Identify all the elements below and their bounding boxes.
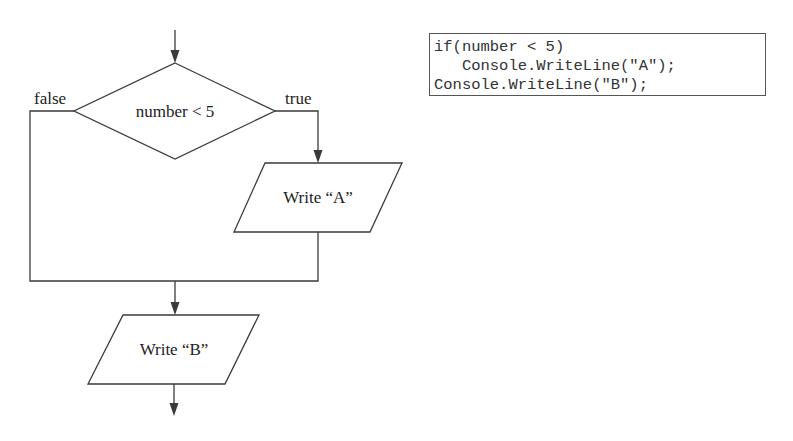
code-line-3: Console.WriteLine("B"); xyxy=(434,76,765,95)
write-b-label: Write “B” xyxy=(140,340,209,359)
exit-arrow xyxy=(170,384,179,416)
false-label: false xyxy=(34,89,66,108)
code-line-1: if(number < 5) xyxy=(434,38,765,57)
write-a-io-shape: Write “A” xyxy=(234,163,402,232)
write-a-label: Write “A” xyxy=(283,188,353,207)
code-line-2: Console.WriteLine("A"); xyxy=(434,57,765,76)
decision-label: number < 5 xyxy=(136,102,215,121)
merge-connector xyxy=(171,232,319,315)
true-label: true xyxy=(285,89,311,108)
code-snippet-box: if(number < 5) Console.WriteLine("A"); C… xyxy=(429,33,766,96)
entry-arrow xyxy=(171,30,180,63)
write-b-io-shape: Write “B” xyxy=(88,315,259,384)
decision-diamond: number < 5 xyxy=(74,63,275,159)
true-branch: true xyxy=(275,89,323,163)
